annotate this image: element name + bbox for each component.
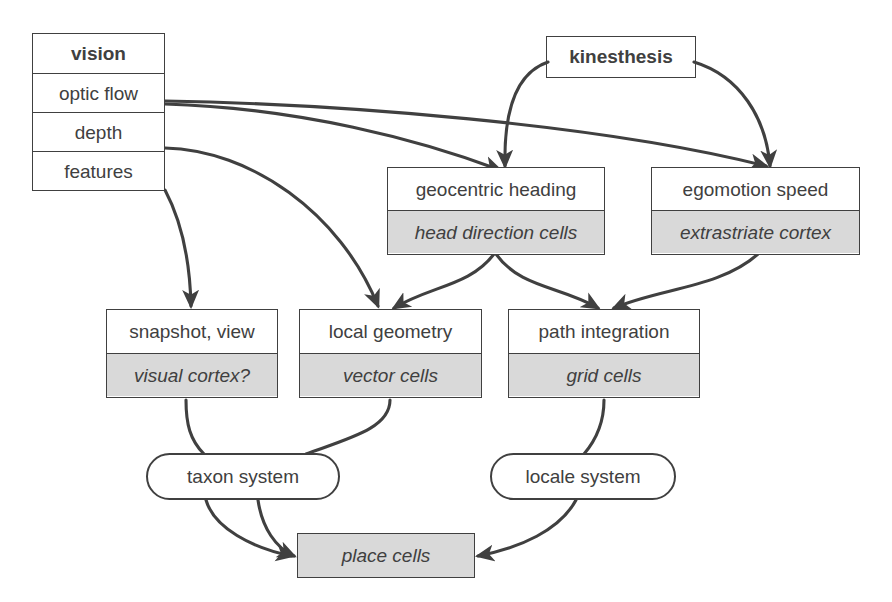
edge-egomotion-pathintegration xyxy=(614,254,758,308)
diagram-canvas: vision optic flow depth features kinesth… xyxy=(0,0,892,602)
node-egomotion-speed[interactable]: egomotion speed extrastriate cortex xyxy=(651,167,860,255)
path-integration-title: path integration xyxy=(509,310,699,353)
edge-depth-localgeometry xyxy=(165,148,378,306)
node-local-geometry[interactable]: local geometry vector cells xyxy=(299,309,482,398)
local-geometry-title: local geometry xyxy=(300,310,481,353)
node-path-integration[interactable]: path integration grid cells xyxy=(508,309,700,398)
node-place-cells[interactable]: place cells xyxy=(297,533,475,578)
edge-geocentric-localgeometry xyxy=(394,254,494,308)
edge-localgeometry-taxon xyxy=(306,400,390,454)
geocentric-heading-substrate: head direction cells xyxy=(388,210,604,253)
edge-opticflow-geocentric xyxy=(165,104,500,170)
node-locale-system[interactable]: locale system xyxy=(490,453,676,500)
node-vision[interactable]: vision optic flow depth features xyxy=(32,33,165,191)
egomotion-speed-title: egomotion speed xyxy=(652,168,859,210)
snapshot-view-title: snapshot, view xyxy=(107,310,277,353)
vision-row-depth[interactable]: depth xyxy=(33,112,164,151)
node-geocentric-heading[interactable]: geocentric heading head direction cells xyxy=(387,167,605,255)
node-taxon-system[interactable]: taxon system xyxy=(146,453,340,500)
edge-geocentric-pathintegration xyxy=(496,254,598,308)
edge-taxon-placecells-outer xyxy=(206,500,292,556)
vision-row-optic-flow[interactable]: optic flow xyxy=(33,73,164,112)
local-geometry-substrate: vector cells xyxy=(300,353,481,396)
vision-row-features[interactable]: features xyxy=(33,151,164,190)
node-snapshot-view[interactable]: snapshot, view visual cortex? xyxy=(106,309,278,398)
egomotion-speed-substrate: extrastriate cortex xyxy=(652,210,859,253)
edge-taxon-placecells-inner xyxy=(258,500,294,556)
edge-features-snapshot xyxy=(165,190,191,306)
edge-opticflow-egomotion xyxy=(165,101,766,166)
node-kinesthesis[interactable]: kinesthesis xyxy=(546,36,696,78)
edge-kinesthesis-geocentric xyxy=(505,62,548,166)
snapshot-view-substrate: visual cortex? xyxy=(107,353,277,396)
path-integration-substrate: grid cells xyxy=(509,353,699,396)
edge-locale-placecells xyxy=(478,500,576,556)
edge-pathintegration-locale xyxy=(584,400,604,454)
vision-row-title: vision xyxy=(33,34,164,73)
geocentric-heading-title: geocentric heading xyxy=(388,168,604,210)
edge-kinesthesis-egomotion xyxy=(694,62,770,166)
edge-snapshot-taxon xyxy=(186,400,204,454)
